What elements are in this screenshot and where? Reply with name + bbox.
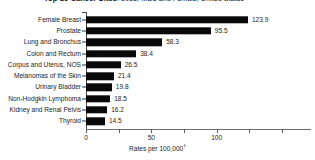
category-label: Non-Hodgkin Lymphoma bbox=[8, 95, 81, 102]
bar-value-label: 123.9 bbox=[252, 16, 269, 23]
x-axis-tick bbox=[217, 129, 218, 133]
category-label: Colon and Rectum bbox=[26, 50, 81, 57]
x-axis-tick bbox=[119, 129, 120, 133]
bar-row: Thyroid14.5 bbox=[86, 116, 282, 127]
category-label: Kidney and Renal Pelvis bbox=[10, 107, 81, 114]
chart-title-clipped: Top 10 Cancer Sites: 2013, Male and Fema… bbox=[0, 0, 315, 6]
bar bbox=[86, 72, 114, 79]
x-axis-tick bbox=[151, 129, 152, 133]
bar-value-label: 14.5 bbox=[109, 118, 122, 125]
x-axis-title: Rates per 100,000† bbox=[0, 143, 315, 152]
x-axis-tick-label: 50 bbox=[148, 134, 155, 141]
x-axis-line bbox=[86, 129, 311, 130]
x-axis-tick-label: 100 bbox=[211, 134, 222, 141]
bar bbox=[86, 50, 136, 57]
bar bbox=[86, 27, 211, 34]
bar-value-label: 95.5 bbox=[215, 28, 228, 35]
x-axis-tick bbox=[86, 129, 87, 133]
x-axis-tick-label: 0 bbox=[84, 134, 88, 141]
bar bbox=[86, 84, 112, 91]
x-axis-tick bbox=[282, 129, 283, 133]
bar bbox=[86, 16, 248, 23]
category-label: Thyroid bbox=[59, 118, 81, 125]
category-label: Melanomas of the Skin bbox=[14, 73, 81, 80]
bar bbox=[86, 61, 121, 68]
bar-row: Melanomas of the Skin21.4 bbox=[86, 71, 282, 82]
chart-title-main: Top 10 Cancer Sites bbox=[44, 0, 117, 3]
bar-value-label: 26.5 bbox=[125, 62, 138, 69]
chart-figure: Top 10 Cancer Sites: 2013, Male and Fema… bbox=[0, 0, 315, 160]
chart-title-subtitle: : 2013, Male and Female, United States bbox=[117, 0, 244, 2]
bar-value-label: 19.8 bbox=[116, 84, 129, 91]
bar-value-label: 38.4 bbox=[140, 50, 153, 57]
bar-row: Urinary Bladder19.8 bbox=[86, 82, 282, 93]
bar-row: Kidney and Renal Pelvis16.2 bbox=[86, 104, 282, 115]
x-axis-tick bbox=[249, 129, 250, 133]
x-axis-title-marker: † bbox=[183, 143, 186, 149]
bar-row: Corpus and Uterus, NOS26.5 bbox=[86, 59, 282, 70]
x-axis-tick bbox=[184, 129, 185, 133]
category-label: Lung and Bronchus bbox=[24, 39, 81, 46]
bar bbox=[86, 39, 162, 46]
category-label: Female Breast bbox=[38, 16, 81, 23]
bar-row: Lung and Bronchus58.3 bbox=[86, 37, 282, 48]
bar-row: Female Breast123.9 bbox=[86, 14, 282, 25]
x-axis-title-text: Rates per 100,000 bbox=[129, 145, 183, 152]
plot-area: Female Breast123.9Prostate95.5Lung and B… bbox=[86, 14, 282, 127]
bar bbox=[86, 106, 107, 113]
bar-row: Colon and Rectum38.4 bbox=[86, 48, 282, 59]
bar bbox=[86, 118, 105, 125]
bar-value-label: 21.4 bbox=[118, 73, 131, 80]
category-label: Prostate bbox=[56, 28, 81, 35]
chart-title: Top 10 Cancer Sites: 2013, Male and Fema… bbox=[44, 0, 244, 3]
bar-row: Prostate95.5 bbox=[86, 25, 282, 36]
bar bbox=[86, 95, 110, 102]
bar-row: Non-Hodgkin Lymphoma18.5 bbox=[86, 93, 282, 104]
category-label: Urinary Bladder bbox=[35, 84, 81, 91]
bar-value-label: 58.3 bbox=[166, 39, 179, 46]
bar-value-label: 16.2 bbox=[111, 107, 124, 114]
category-label: Corpus and Uterus, NOS bbox=[8, 62, 81, 69]
bar-value-label: 18.5 bbox=[114, 95, 127, 102]
